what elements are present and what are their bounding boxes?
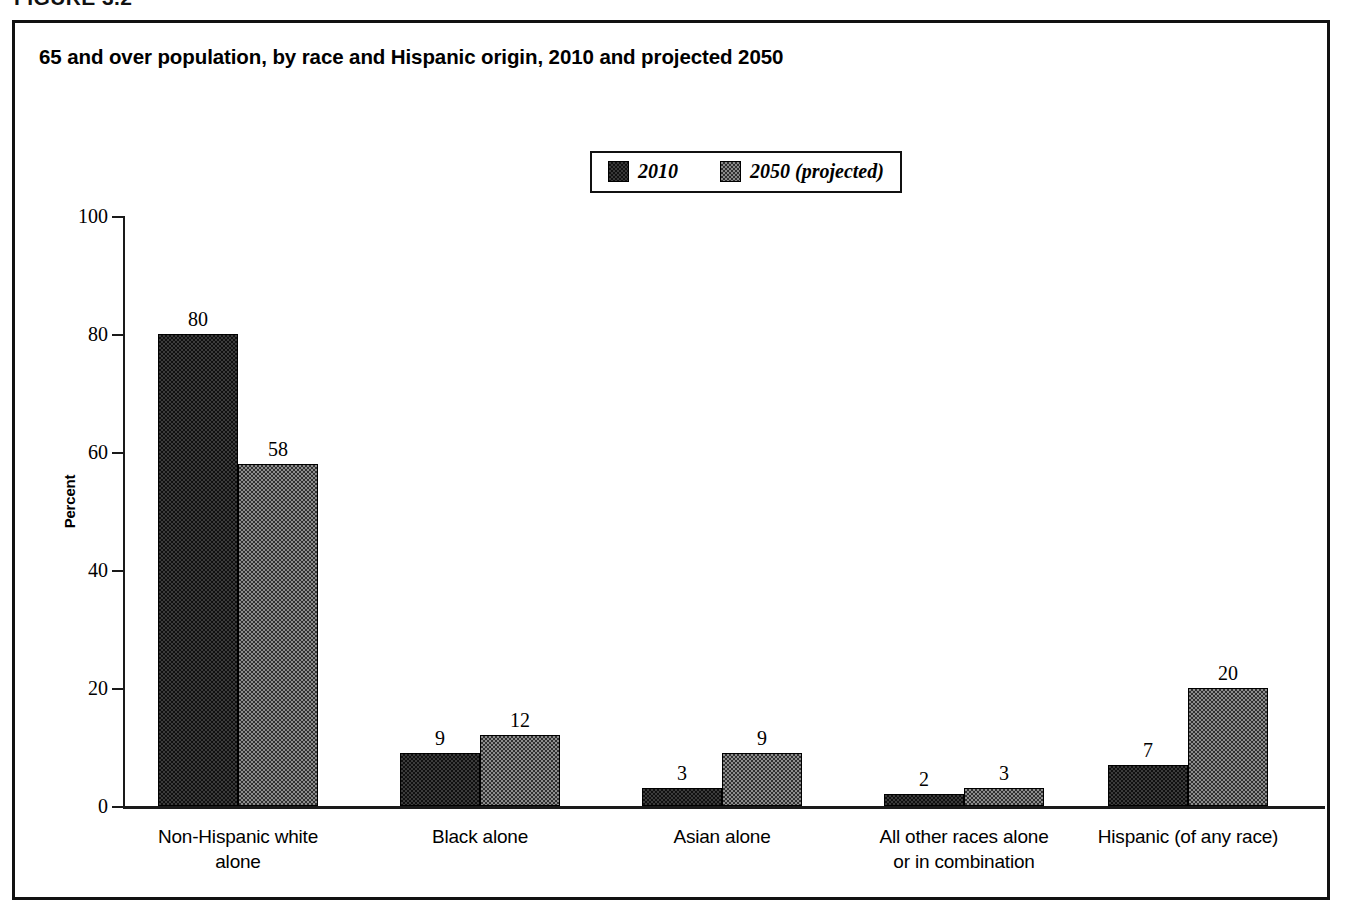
- bar-value-label: 20: [1188, 662, 1268, 685]
- bar: [722, 753, 802, 806]
- bar-value-label: 2: [884, 768, 964, 791]
- y-axis-tick-mark: [112, 216, 124, 218]
- x-axis-line: [123, 806, 1325, 809]
- bar: [400, 753, 480, 806]
- bar: [1188, 688, 1268, 806]
- y-axis-tick-mark: [112, 452, 124, 454]
- bar-value-label: 9: [722, 727, 802, 750]
- bar: [964, 788, 1044, 806]
- y-axis-line: [123, 216, 125, 806]
- figure-frame: 65 and over population, by race and Hisp…: [12, 20, 1330, 900]
- bar: [238, 464, 318, 806]
- bar: [480, 735, 560, 806]
- bar-value-label: 3: [642, 762, 722, 785]
- y-axis-tick-label: 40: [42, 559, 108, 582]
- y-axis-tick-mark: [112, 334, 124, 336]
- y-axis-tick-mark: [112, 806, 124, 808]
- bar: [1108, 765, 1188, 806]
- y-axis-tick-label: 100: [42, 205, 108, 228]
- bar-value-label: 7: [1108, 739, 1188, 762]
- bar-value-label: 9: [400, 727, 480, 750]
- x-axis-category-label-line: alone: [88, 849, 388, 874]
- x-axis-category-label-line: Hispanic (of any race): [1038, 824, 1338, 849]
- bar: [642, 788, 722, 806]
- x-axis-category-label-line: or in combination: [814, 849, 1114, 874]
- plot-area: Percent 020406080100 80932758129320 Non-…: [15, 23, 1333, 903]
- y-axis-tick-label: 20: [42, 677, 108, 700]
- bar-value-label: 58: [238, 438, 318, 461]
- bar-value-label: 80: [158, 308, 238, 331]
- y-axis-tick-label: 60: [42, 441, 108, 464]
- bar-value-label: 3: [964, 762, 1044, 785]
- y-axis-tick-mark: [112, 570, 124, 572]
- y-axis-tick-label: 0: [42, 795, 108, 818]
- bar: [884, 794, 964, 806]
- bar: [158, 334, 238, 806]
- y-axis-tick-mark: [112, 688, 124, 690]
- x-axis-category-label: Hispanic (of any race): [1038, 824, 1338, 849]
- y-axis-tick-label: 80: [42, 323, 108, 346]
- bar-value-label: 12: [480, 709, 560, 732]
- figure-number-label: FIGURE 3.2: [14, 0, 132, 10]
